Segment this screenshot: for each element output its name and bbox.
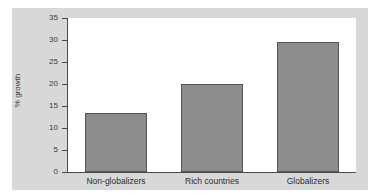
y-tick-label: 30 [42, 36, 58, 44]
bar [85, 113, 147, 172]
bar [181, 84, 243, 172]
x-axis-line [67, 172, 356, 173]
y-axis-line [67, 18, 68, 173]
x-tick-label: Globalizers [248, 176, 368, 186]
y-tick [62, 172, 67, 173]
y-tick-label: 25 [42, 58, 58, 66]
y-tick-label: 20 [42, 80, 58, 88]
y-tick-label: 10 [42, 124, 58, 132]
y-tick [62, 18, 67, 19]
y-tick-label: 35 [42, 14, 58, 22]
y-tick [62, 128, 67, 129]
bar-chart-figure: 05101520253035 % growth Non-globalizersR… [0, 0, 379, 196]
y-tick [62, 84, 67, 85]
bar [277, 42, 339, 172]
y-tick-label: 5 [42, 146, 58, 154]
y-axis-title: % growth [13, 61, 22, 121]
y-tick [62, 106, 67, 107]
y-tick [62, 40, 67, 41]
y-tick [62, 150, 67, 151]
y-tick [62, 62, 67, 63]
y-tick-label: 15 [42, 102, 58, 110]
y-tick-label: 0 [42, 168, 58, 176]
